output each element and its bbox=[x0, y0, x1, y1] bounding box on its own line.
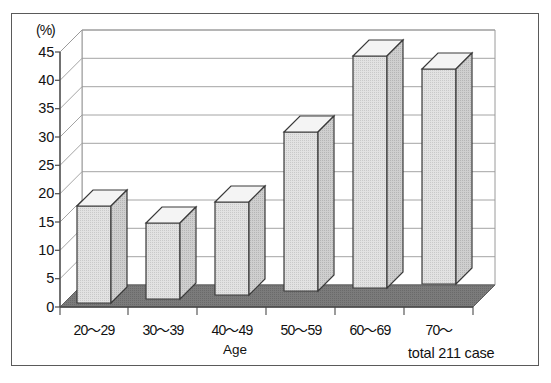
x-axis-tick-40-49: 40〜49 bbox=[196, 319, 268, 339]
y-axis-tick-35: 35 bbox=[20, 100, 54, 116]
x-axis-title: Age bbox=[175, 342, 295, 357]
y-axis-tick-15: 15 bbox=[20, 214, 54, 230]
bar-column[interactable] bbox=[77, 190, 127, 303]
y-axis-unit-label: (%) bbox=[36, 22, 55, 38]
x-axis-tick-20-29: 20〜29 bbox=[58, 319, 130, 339]
y-axis-tick-30: 30 bbox=[20, 129, 54, 145]
bar-column[interactable] bbox=[353, 40, 403, 288]
bar-column[interactable] bbox=[422, 53, 472, 284]
y-axis-tick-0: 0 bbox=[20, 299, 54, 315]
y-axis-tick-20: 20 bbox=[20, 185, 54, 201]
y-axis-tick-25: 25 bbox=[20, 157, 54, 173]
x-axis-tick-70-plus: 70〜 bbox=[403, 319, 475, 339]
bar-column[interactable] bbox=[284, 116, 334, 291]
x-axis-tick-60-69: 60〜69 bbox=[334, 319, 406, 339]
y-axis-tick-10: 10 bbox=[20, 242, 54, 258]
y-axis-ticks bbox=[55, 52, 60, 307]
y-axis-tick-40: 40 bbox=[20, 72, 54, 88]
x-axis-tick-30-39: 30〜39 bbox=[127, 319, 199, 339]
bar-column[interactable] bbox=[215, 186, 265, 295]
x-axis-ticks bbox=[60, 307, 473, 315]
bar-column[interactable] bbox=[146, 207, 196, 299]
x-axis-tick-50-59: 50〜59 bbox=[265, 319, 337, 339]
total-cases-note: total 211 case bbox=[408, 345, 494, 361]
y-axis-tick-5: 5 bbox=[20, 270, 54, 286]
figure-container: (%) 45 40 35 30 25 20 15 10 5 0 20〜29 30… bbox=[0, 0, 551, 383]
y-axis-tick-45: 45 bbox=[20, 44, 54, 60]
